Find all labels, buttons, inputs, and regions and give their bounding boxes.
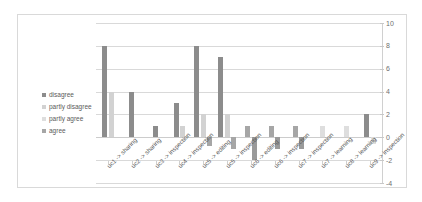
bar: [245, 126, 250, 137]
legend-swatch-icon: [42, 129, 46, 133]
bar: [109, 92, 114, 138]
legend-swatch-icon: [42, 105, 46, 109]
bar: [231, 137, 236, 148]
y-axis-tick-mark: [380, 69, 384, 70]
y-axis-tick-label: -4: [386, 180, 408, 187]
y-axis-tick-mark: [380, 114, 384, 115]
y-axis-tick-mark: [380, 23, 384, 24]
bar: [194, 46, 199, 137]
y-axis-tick-mark: [380, 46, 384, 47]
y-axis-tick-label: 8: [386, 42, 408, 49]
y-axis-tick-label: -2: [386, 157, 408, 164]
y-axis-tick-label: 2: [386, 111, 408, 118]
legend-swatch-icon: [42, 93, 46, 97]
y-axis-tick-label: 4: [386, 88, 408, 95]
chart-legend: disagreepartly disagreepartly agreeagree: [42, 89, 98, 137]
y-axis-tick-mark: [380, 137, 384, 138]
bar: [269, 126, 274, 137]
bar: [293, 126, 298, 137]
bar: [153, 126, 158, 137]
bar: [364, 114, 369, 137]
bar: [218, 57, 223, 137]
legend-item: partly disagree: [42, 101, 98, 113]
legend-item-label: partly agree: [49, 116, 83, 123]
legend-item-label: agree: [49, 128, 66, 135]
legend-item: disagree: [42, 89, 98, 101]
y-axis-tick-mark: [380, 92, 384, 93]
bar: [102, 46, 107, 137]
bar: [174, 103, 179, 137]
legend-item: partly agree: [42, 113, 98, 125]
x-axis-category-labels: uc1 -> sharinguc2 -> sharinguc3 -> inspe…: [96, 165, 382, 202]
legend-item-label: disagree: [49, 92, 74, 99]
bar: [225, 114, 230, 137]
legend-item-label: partly disagree: [49, 104, 92, 111]
chart-container: 1086420-2-4 disagreepartly disagreepartl…: [17, 14, 407, 188]
bar: [129, 92, 134, 138]
y-axis-tick-label: 6: [386, 65, 408, 72]
legend-swatch-icon: [42, 117, 46, 121]
legend-item: agree: [42, 125, 98, 137]
y-axis-tick-label: 10: [386, 20, 408, 27]
